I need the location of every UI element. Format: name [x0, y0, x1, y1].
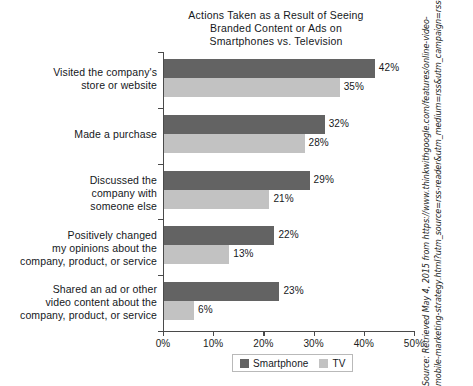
x-axis-tick	[213, 331, 214, 336]
bar-value-smartphone: 42%	[379, 62, 399, 73]
bar-value-smartphone: 32%	[329, 118, 349, 129]
category-label-line: someone else	[0, 200, 157, 213]
bar-value-smartphone: 29%	[314, 174, 334, 185]
x-axis-tick	[364, 331, 365, 336]
y-axis-tick	[158, 275, 164, 276]
y-axis-tick	[158, 164, 164, 165]
x-axis-tick-label: 40%	[354, 338, 374, 349]
chart-legend: Smartphone TV	[232, 354, 353, 372]
bar-smartphone	[164, 171, 310, 190]
category-label-line: Made a purchase	[0, 128, 157, 141]
bar-smartphone	[164, 282, 279, 301]
x-axis-tick	[414, 331, 415, 336]
category-label-line: Discussed the	[0, 174, 157, 187]
category-label-line: company with	[0, 187, 157, 200]
category-label-visited-store: Visited the company's store or website	[0, 66, 157, 92]
legend-swatch-smartphone	[240, 359, 249, 368]
legend-label-smartphone: Smartphone	[253, 358, 308, 369]
x-axis-tick	[314, 331, 315, 336]
x-axis-tick-label: 10%	[203, 338, 223, 349]
legend-swatch-tv	[319, 359, 328, 368]
bar-tv	[164, 78, 340, 97]
y-axis-tick	[158, 219, 164, 220]
bar-smartphone	[164, 226, 274, 245]
bar-chart: Actions Taken as a Result of Seeing Bran…	[0, 0, 473, 386]
bar-value-tv: 35%	[344, 81, 364, 92]
category-label-line: my opinions about the	[0, 242, 157, 255]
bar-value-tv: 28%	[309, 137, 329, 148]
bar-tv	[164, 245, 229, 264]
x-axis-tick	[163, 331, 164, 336]
category-label-line: company, product, or service	[0, 255, 157, 268]
category-label-line: Visited the company's	[0, 66, 157, 79]
source-line-2: mobile-marketing-strategy.html?utm_sourc…	[433, 0, 445, 386]
category-label-shared-ad-video: Shared an ad or other video content abou…	[0, 283, 157, 323]
category-label-line: Positively changed	[0, 229, 157, 242]
category-label-discussed-company: Discussed the company with someone else	[0, 174, 157, 214]
chart-title-line-2: Branded Content or Ads on	[148, 22, 404, 35]
bar-tv	[164, 134, 305, 153]
legend-label-tv: TV	[332, 358, 345, 369]
category-label-line: store or website	[0, 79, 157, 92]
bar-tv	[164, 190, 269, 209]
y-axis-tick	[158, 52, 164, 53]
x-axis-tick-label: 0%	[156, 338, 171, 349]
category-label-positively-changed-opinions: Positively changed my opinions about the…	[0, 229, 157, 269]
bar-value-smartphone: 22%	[278, 229, 298, 240]
x-axis-tick	[263, 331, 264, 336]
chart-title-line-3: Smartphones vs. Television	[148, 35, 404, 48]
y-axis-tick	[158, 108, 164, 109]
category-label-line: video content about the	[0, 296, 157, 309]
legend-item-tv[interactable]: TV	[319, 358, 345, 369]
category-label-line: Shared an ad or other	[0, 283, 157, 296]
chart-title: Actions Taken as a Result of Seeing Bran…	[148, 9, 404, 49]
bar-smartphone	[164, 59, 375, 78]
category-label-made-purchase: Made a purchase	[0, 128, 157, 141]
chart-title-line-1: Actions Taken as a Result of Seeing	[148, 9, 404, 22]
bar-value-tv: 21%	[273, 193, 293, 204]
bar-value-tv: 6%	[198, 304, 213, 315]
bar-value-smartphone: 23%	[283, 285, 303, 296]
category-label-line: company, product, or service	[0, 309, 157, 322]
source-attribution: Source: Retrieved May 4, 2015 from https…	[421, 0, 471, 386]
bar-smartphone	[164, 115, 325, 134]
legend-item-smartphone[interactable]: Smartphone	[240, 358, 308, 369]
bar-tv	[164, 301, 194, 320]
x-axis-line	[163, 331, 415, 332]
bar-value-tv: 13%	[233, 248, 253, 259]
source-line-1: Source: Retrieved May 4, 2015 from https…	[421, 0, 433, 386]
x-axis-tick-label: 30%	[303, 338, 323, 349]
plot-area: 42% 35% 32% 28% 29% 21% 22% 13% 23% 6%	[163, 52, 415, 331]
x-axis-tick-label: 20%	[253, 338, 273, 349]
